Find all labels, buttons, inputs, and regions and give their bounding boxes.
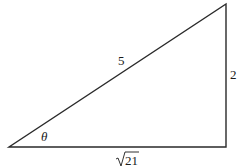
- adjacent-side-label: 21: [116, 152, 139, 168]
- triangle-outline: [9, 4, 226, 147]
- opposite-side-label: 2: [230, 67, 237, 82]
- right-triangle-diagram: 5 2 θ 21: [0, 0, 240, 168]
- radicand-text: 21: [125, 153, 138, 168]
- hypotenuse-label: 5: [118, 53, 125, 68]
- angle-theta-label: θ: [41, 129, 48, 144]
